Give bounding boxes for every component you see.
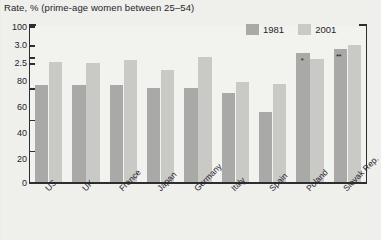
x-tick-label-uk: UK [80,178,95,193]
legend-item-2001: 2001 [298,24,336,35]
legend-label-2001: 2001 [315,24,336,35]
x-tick-label-italy: Italy [229,175,247,193]
x-tick-label-spain: Spain [267,171,289,193]
legend-swatch-icon-2001 [298,24,311,35]
chart-legend: 1981 2001 [246,24,345,35]
x-tick-label-poland: Poland [304,167,330,193]
legend-swatch-icon-1981 [246,24,259,35]
x-tick-label-slovak-rep-: Slovak Rep. [341,154,380,193]
x-tick-label-france: France [117,167,143,193]
x-tick-label-japan: Japan [155,170,178,193]
x-tick-label-us: US [43,178,58,193]
legend-label-1981: 1981 [263,24,284,35]
x-tick-label-germany: Germany [192,161,224,193]
legend-item-1981: 1981 [246,24,284,35]
